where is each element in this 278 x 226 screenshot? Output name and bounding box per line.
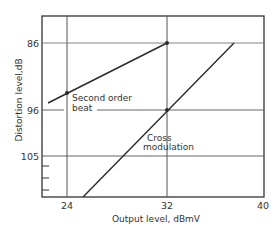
marker — [65, 91, 69, 95]
x-tick-label: 40 — [257, 200, 269, 211]
y-tick-label: 105 — [21, 151, 39, 162]
y-tick-label: 86 — [27, 38, 39, 49]
marker — [165, 108, 169, 112]
series-cross-modulation — [83, 43, 234, 197]
chart: Second order beat Cross modulation 86 96… — [0, 0, 278, 226]
x-tick-label: 32 — [161, 200, 173, 211]
y-axis-label: Distortion level,dB — [14, 58, 24, 141]
series-label: beat — [72, 103, 93, 113]
series-label: modulation — [143, 142, 194, 152]
marker — [165, 41, 169, 45]
x-tick-label: 24 — [61, 200, 73, 211]
x-axis-label: Output level, dBmV — [112, 214, 201, 224]
series-label: Second order — [72, 93, 132, 103]
y-tick-label: 96 — [27, 105, 39, 116]
